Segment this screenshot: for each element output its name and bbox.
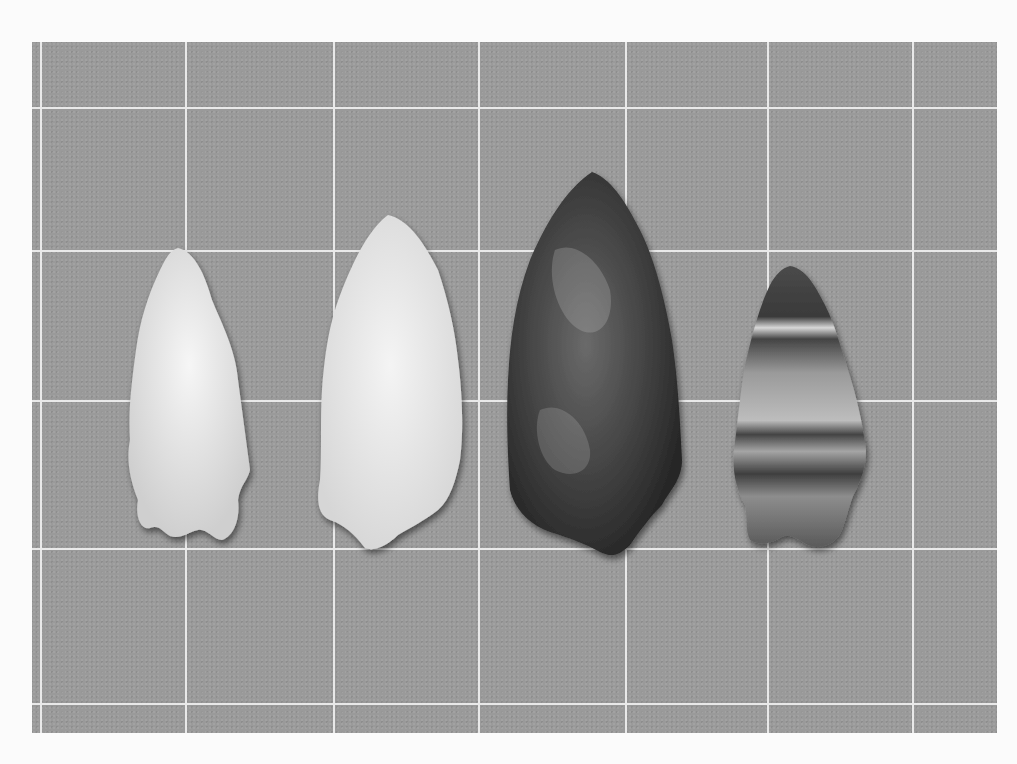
point-4 [733, 266, 866, 547]
point-2 [318, 215, 462, 549]
projectile-points [0, 0, 1017, 764]
point-1 [128, 248, 250, 540]
point-3 [507, 172, 682, 555]
